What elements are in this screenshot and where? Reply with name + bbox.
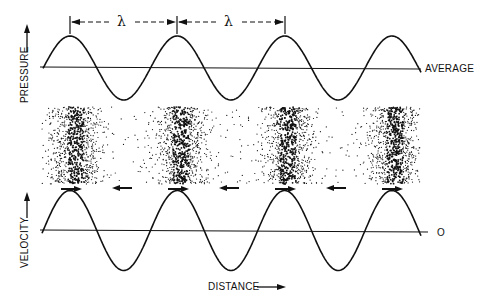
wavelength-markers (70, 16, 285, 34)
velocity-zero-line (40, 230, 428, 232)
sound-wave-diagram (0, 0, 485, 301)
wavelength-label-2: λ (222, 14, 235, 28)
wavelength-label-1: λ (115, 14, 128, 28)
zero-label: O (437, 227, 445, 238)
particle-motion-arrows (61, 185, 403, 192)
average-label: AVERAGE (425, 63, 474, 74)
particle-density-bands (42, 106, 421, 185)
velocity-axis-arrow (24, 192, 30, 218)
distance-axis-arrow (257, 284, 286, 290)
velocity-axis-label: VELOCITY (19, 217, 30, 268)
distance-axis-label: DISTANCE (208, 281, 259, 292)
pressure-axis-label: PRESSURE (19, 46, 30, 103)
